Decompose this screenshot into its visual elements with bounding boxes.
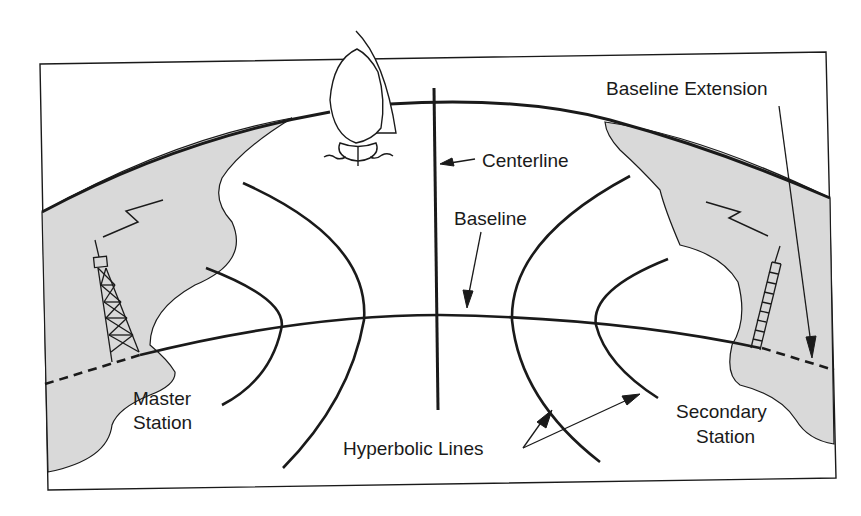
label-baseline: Baseline xyxy=(454,208,527,229)
label-hyperbolic-lines: Hyperbolic Lines xyxy=(343,438,483,459)
loran-diagram: Baseline Extension Centerline Baseline M… xyxy=(0,0,861,516)
label-secondary-station-line1: Secondary xyxy=(676,401,767,422)
label-master-station-line1: Master xyxy=(133,388,192,409)
label-master-station-line2: Station xyxy=(133,412,192,433)
label-centerline: Centerline xyxy=(482,150,569,171)
label-secondary-station-line2: Station xyxy=(696,426,755,447)
label-baseline-extension: Baseline Extension xyxy=(606,78,768,99)
